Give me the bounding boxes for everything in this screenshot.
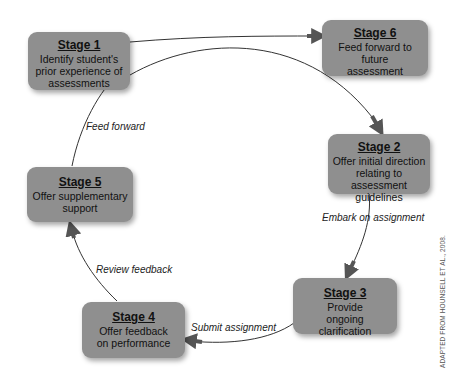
arrow-stage1-to-stage6 [130, 36, 320, 42]
stage-6-description: Feed forward to future assessment [322, 41, 428, 77]
stage-6-box: Stage 6 Feed forward to future assessmen… [322, 20, 428, 76]
source-credit: ADAPTED FROM HOUNSELL ET AL., 2008. [439, 235, 446, 368]
stage-3-description: Provide ongoing clarification [293, 301, 397, 337]
stage-2-title: Stage 2 [328, 140, 430, 154]
label-feed-forward: Feed forward [86, 121, 145, 132]
stage-3-box: Stage 3 Provide ongoing clarification [293, 278, 397, 334]
arrow-stage2-to-stage3 [350, 193, 370, 270]
stage-4-title: Stage 4 [82, 310, 185, 324]
stage-1-box: Stage 1 Identify student's prior experie… [28, 32, 130, 90]
stage-3-title: Stage 3 [293, 286, 397, 300]
stage-2-description: Offer initial direction relating to asse… [328, 155, 430, 203]
stage-5-description: Offer supplementary support [27, 190, 133, 214]
stage-4-description: Offer feedback on performance [82, 325, 185, 349]
stage-6-title: Stage 6 [322, 26, 428, 40]
stage-5-box: Stage 5 Offer supplementary support [27, 167, 133, 222]
stage-5-title: Stage 5 [27, 175, 133, 189]
stage-4-box: Stage 4 Offer feedback on performance [82, 302, 185, 358]
stage-1-description: Identify student's prior experience of a… [28, 53, 130, 89]
label-embark-on-assignment: Embark on assignment [322, 212, 424, 223]
stage-2-box: Stage 2 Offer initial direction relating… [328, 134, 430, 194]
label-submit-assignment: Submit assignment [191, 322, 276, 333]
stage-1-title: Stage 1 [28, 38, 130, 52]
label-review-feedback: Review feedback [96, 264, 172, 275]
